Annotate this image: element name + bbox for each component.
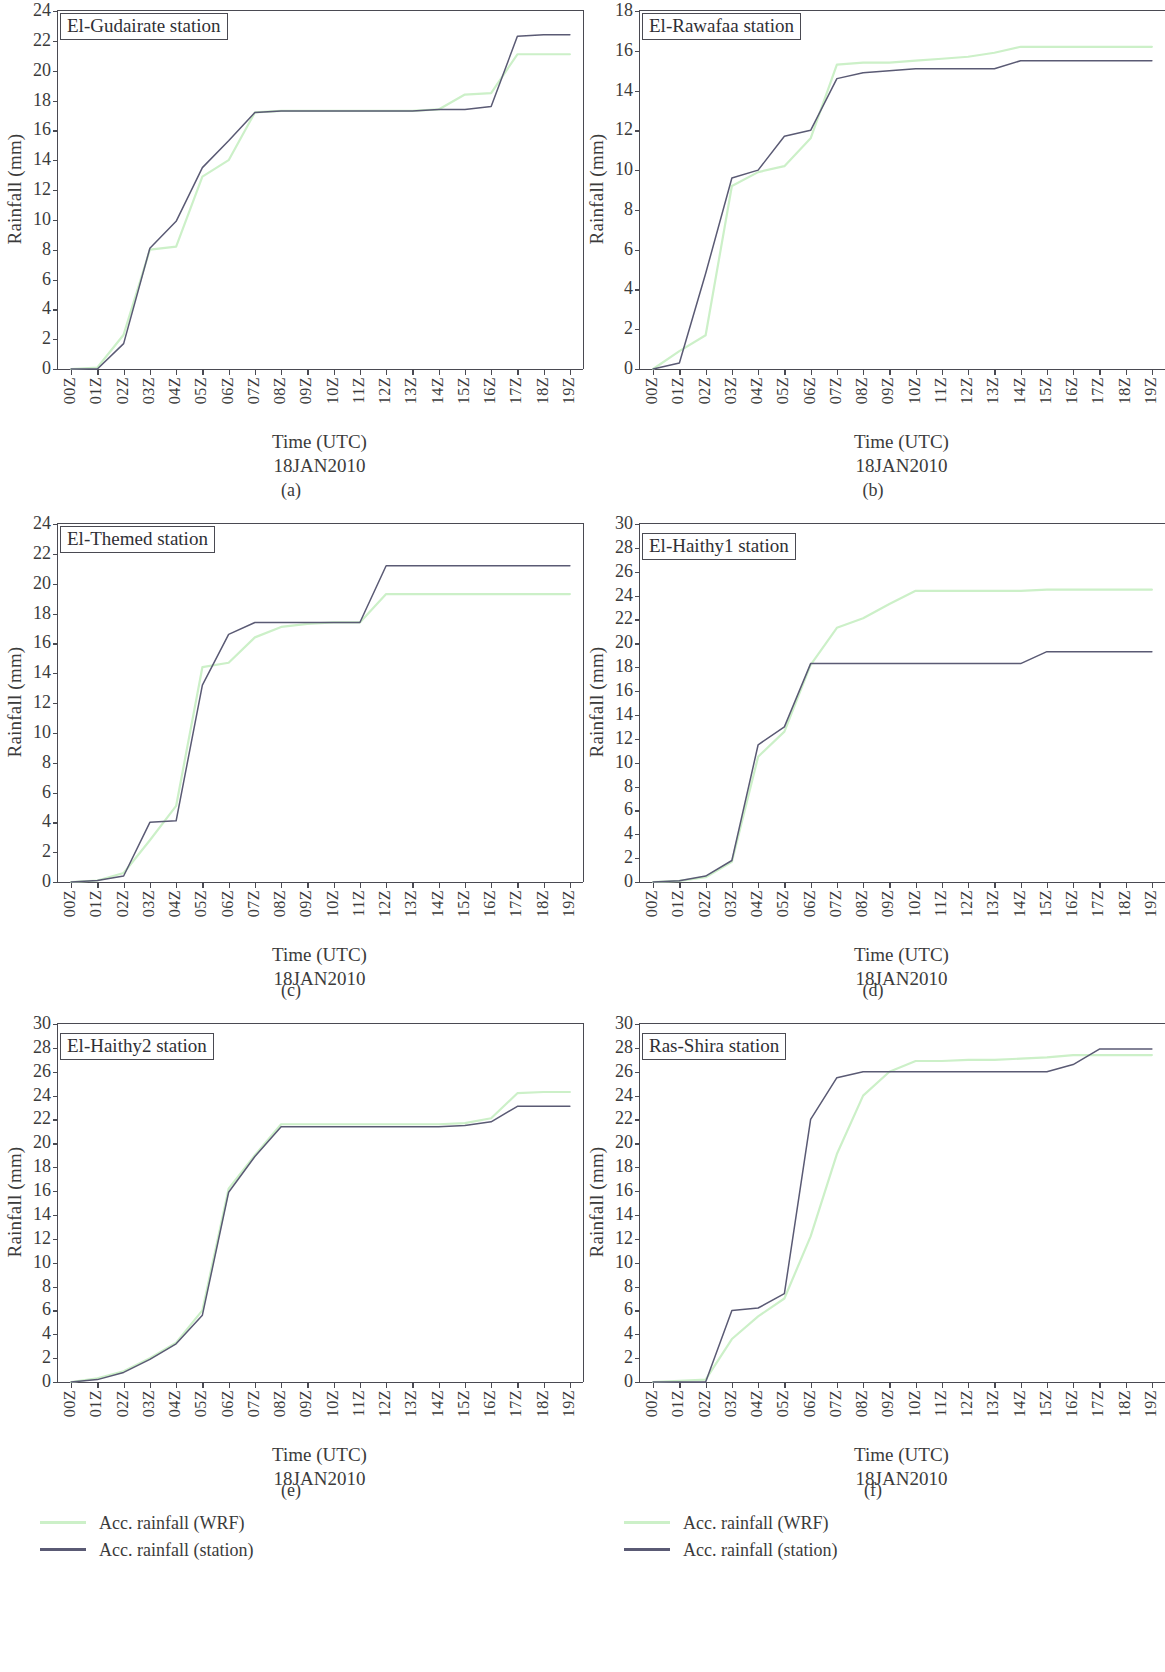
x-axis-tick	[465, 882, 466, 888]
y-tick-label: 14	[33, 1205, 51, 1223]
series-line	[653, 590, 1152, 882]
legend-item-wrf[interactable]: Acc. rainfall (WRF)	[624, 1509, 837, 1536]
x-tick-label: 18Z	[1117, 890, 1133, 917]
x-tick-label: 15Z	[456, 377, 472, 404]
series-lines	[640, 524, 1165, 882]
x-axis-tick	[412, 1382, 413, 1388]
y-axis-tick-labels: 024681012141618202224	[17, 10, 51, 368]
y-tick-label: 14	[615, 81, 633, 99]
x-tick-label: 00Z	[644, 890, 660, 917]
legend: Acc. rainfall (WRF)Acc. rainfall (statio…	[40, 1509, 253, 1563]
y-tick-label: 16	[33, 120, 51, 138]
y-axis-tick	[53, 369, 58, 370]
x-tick-label: 02Z	[115, 377, 131, 404]
series-line	[653, 61, 1152, 369]
y-tick-label: 22	[33, 31, 51, 49]
series-line	[71, 35, 570, 369]
panel-caption: (e)	[0, 1480, 582, 1501]
panel-caption: (f)	[582, 1480, 1164, 1501]
y-tick-label: 0	[42, 1372, 51, 1390]
x-tick-label: 12Z	[377, 377, 393, 404]
x-axis-tick	[124, 882, 125, 888]
x-axis-tick	[439, 1382, 440, 1388]
x-tick-label: 07Z	[246, 1390, 262, 1417]
x-axis-tick	[758, 1382, 759, 1388]
x-tick-label: 00Z	[62, 377, 78, 404]
x-axis-tick	[491, 369, 492, 375]
x-tick-label: 08Z	[854, 377, 870, 404]
y-tick-label: 12	[33, 180, 51, 198]
x-axis-tick	[863, 1382, 864, 1388]
y-tick-label: 2	[624, 319, 633, 337]
x-tick-label: 17Z	[508, 377, 524, 404]
x-tick-label: 09Z	[880, 377, 896, 404]
x-axis-tick	[360, 369, 361, 375]
y-tick-label: 6	[42, 1300, 51, 1318]
plot-area: El-Rawafaa station	[639, 10, 1165, 369]
x-tick-label: 04Z	[167, 890, 183, 917]
x-axis-tick	[255, 369, 256, 375]
y-tick-label: 12	[615, 729, 633, 747]
x-tick-label: 03Z	[723, 377, 739, 404]
x-axis-tick	[360, 1382, 361, 1388]
x-tick-label: 01Z	[670, 890, 686, 917]
x-tick-label: 14Z	[430, 890, 446, 917]
x-axis-tick	[334, 882, 335, 888]
x-tick-label: 18Z	[1117, 377, 1133, 404]
x-axis-tick	[386, 882, 387, 888]
x-tick-label: 04Z	[749, 377, 765, 404]
legend-item-station[interactable]: Acc. rainfall (station)	[624, 1536, 837, 1563]
x-axis-tick	[679, 882, 680, 888]
x-tick-label: 02Z	[697, 1390, 713, 1417]
y-axis-tick-labels: 024681012141618202224	[17, 523, 51, 881]
legend-label: Acc. rainfall (station)	[99, 1541, 253, 1559]
y-tick-label: 20	[33, 61, 51, 79]
x-axis-tick-labels: 00Z01Z02Z03Z04Z05Z06Z07Z08Z09Z10Z11Z12Z1…	[57, 377, 582, 425]
x-axis-tick	[202, 882, 203, 888]
legend-item-station[interactable]: Acc. rainfall (station)	[40, 1536, 253, 1563]
station-title-box: El-Gudairate station	[60, 13, 228, 40]
y-tick-label: 8	[42, 240, 51, 258]
x-tick-label: 07Z	[828, 890, 844, 917]
x-tick-label: 03Z	[723, 1390, 739, 1417]
plot-area: El-Themed station	[57, 523, 584, 882]
x-axis-tick	[916, 1382, 917, 1388]
x-tick-label: 03Z	[141, 890, 157, 917]
x-tick-label: 02Z	[115, 1390, 131, 1417]
x-axis-tick	[863, 882, 864, 888]
x-axis-tick	[97, 882, 98, 888]
x-tick-label: 11Z	[351, 1390, 367, 1417]
series-lines	[58, 11, 583, 369]
x-tick-label: 14Z	[430, 377, 446, 404]
x-tick-label: 19Z	[561, 377, 577, 404]
x-tick-label: 03Z	[141, 377, 157, 404]
y-tick-label: 4	[42, 299, 51, 317]
x-axis-tick	[1099, 882, 1100, 888]
x-axis-tick	[837, 882, 838, 888]
x-tick-label: 18Z	[535, 1390, 551, 1417]
x-tick-label: 15Z	[1038, 1390, 1054, 1417]
station-title-box: El-Haithy1 station	[642, 533, 796, 560]
x-tick-label: 10Z	[325, 377, 341, 404]
y-tick-label: 30	[615, 1014, 633, 1032]
legend-item-wrf[interactable]: Acc. rainfall (WRF)	[40, 1509, 253, 1536]
x-axis-title: Time (UTC)18JAN2010	[639, 430, 1164, 478]
x-tick-label: 19Z	[1143, 1390, 1159, 1417]
x-axis-title-line1: Time (UTC)	[57, 1443, 582, 1467]
x-axis-title-line1: Time (UTC)	[57, 943, 582, 967]
x-axis-tick	[994, 369, 995, 375]
legend-label: Acc. rainfall (WRF)	[683, 1514, 828, 1532]
x-axis-tick	[1152, 882, 1153, 888]
x-axis-tick	[1047, 369, 1048, 375]
x-axis-tick	[307, 882, 308, 888]
x-axis-tick	[465, 369, 466, 375]
x-axis-tick	[150, 369, 151, 375]
series-lines	[640, 11, 1165, 369]
x-axis-tick	[176, 1382, 177, 1388]
y-tick-label: 20	[33, 1133, 51, 1151]
x-axis-title: Time (UTC)18JAN2010	[57, 430, 582, 478]
x-axis-tick	[97, 1382, 98, 1388]
x-tick-label: 16Z	[1064, 890, 1080, 917]
chart-panel-e: Rainfall (mm)024681012141618202224262830…	[0, 1010, 582, 1510]
x-axis-tick	[334, 1382, 335, 1388]
